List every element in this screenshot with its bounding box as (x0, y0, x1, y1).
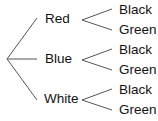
node-red-green: Green (119, 23, 157, 37)
node-blue-green: Green (119, 63, 157, 77)
node-red-black: Black (119, 3, 152, 17)
node-white-black: Black (119, 83, 152, 97)
node-red: Red (45, 12, 70, 26)
node-blue-black: Black (119, 43, 152, 57)
node-blue: Blue (45, 52, 72, 66)
node-white: White (44, 92, 79, 106)
node-white-green: Green (119, 103, 157, 117)
